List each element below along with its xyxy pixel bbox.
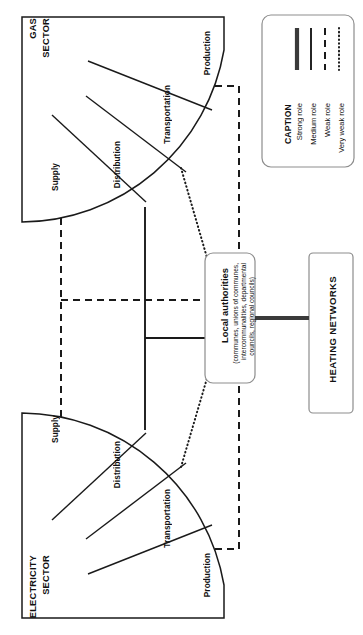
gas-sector-title-2: SECTOR [41, 18, 52, 58]
local-authorities-title: Local authorities [219, 268, 230, 343]
legend-title-text: CAPTION [283, 104, 293, 144]
gas-segment-transportation: Transportation [163, 85, 172, 144]
gas-segment-distribution-label: Distribution [113, 141, 122, 188]
gas-segment-distribution: Distribution [113, 141, 122, 188]
gas-segment-production: Production [203, 31, 212, 75]
electricity-segment-transportation: Transportation [163, 489, 172, 548]
diagram-svg [0, 0, 363, 635]
gas-sector-title: GAS [28, 18, 39, 39]
electricity-sector-title-line2: SECTOR [41, 555, 52, 595]
electricity-segment-supply-label: Supply [51, 415, 60, 443]
gas-segment-supply-label: Supply [51, 163, 60, 191]
legend-item-very-weak-label: Very weak role [337, 103, 346, 153]
electricity-segment-supply: Supply [51, 415, 60, 443]
local-authorities-subtitle-line3: councils, regional councils) [248, 277, 257, 356]
local-authorities-subtitle-3: councils, regional councils) [248, 277, 257, 356]
heating-networks-title: HEATING NETWORKS [327, 276, 338, 383]
local-authorities-title-text: Local authorities [219, 268, 230, 343]
link-electricity-transportation-local-authorities [181, 368, 210, 467]
electricity-segment-transportation-label: Transportation [163, 489, 172, 548]
legend-item-medium-label: Medium role [309, 103, 318, 145]
electricity-sector-title: ELECTRICITY [28, 555, 39, 618]
electricity-sector-title-2: SECTOR [41, 555, 52, 595]
electricity-segment-distribution-label: Distribution [113, 441, 122, 488]
gas-segment-transportation-label: Transportation [163, 85, 172, 144]
legend-item-very-weak: Very weak role [337, 103, 346, 153]
legend-item-weak-label: Weak role [323, 103, 332, 137]
gas-segment-production-label: Production [203, 31, 212, 75]
legend-item-weak: Weak role [323, 103, 332, 137]
electricity-segment-production-label: Production [203, 553, 212, 597]
electricity-segment-distribution: Distribution [113, 441, 122, 488]
diagram-canvas: GAS SECTOR Supply Distribution Transport… [0, 0, 363, 635]
gas-sector-title-line1: GAS [28, 18, 39, 39]
gas-segment-supply: Supply [51, 163, 60, 191]
legend-title: CAPTION [283, 104, 293, 144]
gas-sector-title-line2: SECTOR [41, 18, 52, 58]
electricity-sector-title-line1: ELECTRICITY [28, 555, 39, 618]
electricity-segment-production: Production [203, 553, 212, 597]
legend-item-strong: Strong role [295, 103, 304, 140]
heating-networks-title-text: HEATING NETWORKS [327, 276, 338, 383]
legend-item-strong-label: Strong role [295, 103, 304, 140]
legend-item-medium: Medium role [309, 103, 318, 145]
link-gas-transportation-local-authorities [181, 168, 210, 268]
